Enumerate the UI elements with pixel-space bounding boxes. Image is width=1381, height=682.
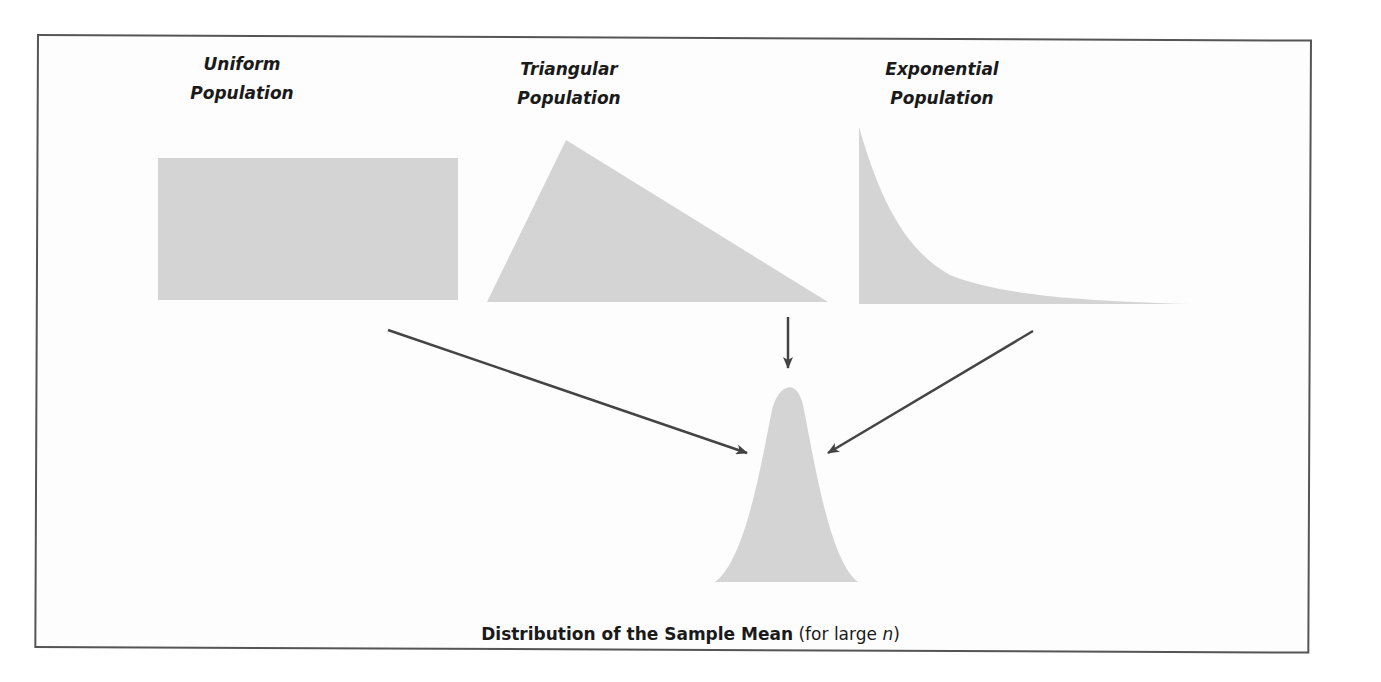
- caption-italic-n: n: [882, 624, 893, 644]
- caption-bold: Distribution of the Sample Mean: [481, 624, 793, 644]
- triangular-distribution-shape: [487, 140, 828, 302]
- sample-mean-normal-shape: [715, 387, 858, 582]
- uniform-distribution-shape: [158, 158, 458, 300]
- arrow-from-exponential: [828, 331, 1033, 453]
- figure-caption: Distribution of the Sample Mean (for lar…: [0, 624, 1381, 644]
- diagram-canvas: [0, 0, 1381, 682]
- caption-paren-open: (for large: [793, 624, 882, 644]
- arrow-from-uniform: [388, 330, 747, 453]
- caption-paren-close: ): [893, 624, 900, 644]
- exponential-distribution-shape: [859, 127, 1190, 304]
